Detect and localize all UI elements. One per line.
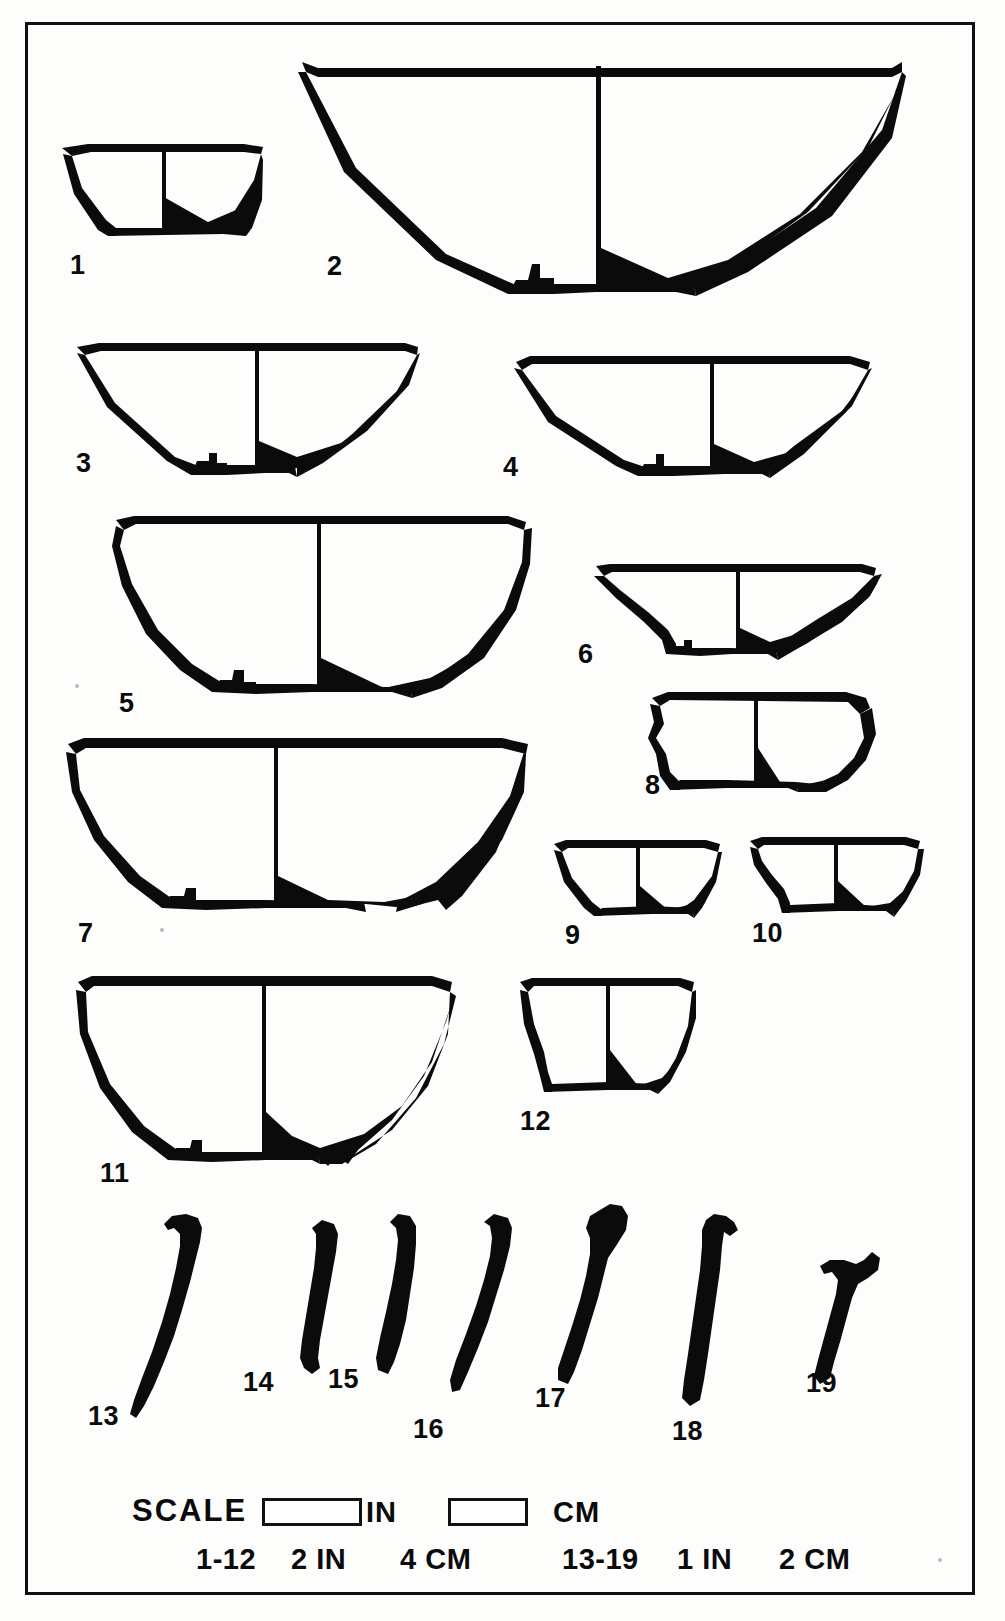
paper-speck: [75, 684, 79, 688]
paper-speck: [938, 1558, 942, 1562]
scale-group-a-inches: 2 IN: [291, 1545, 346, 1574]
paper-speck: [160, 928, 164, 932]
scale-bar-inches: [262, 1498, 362, 1526]
scale-group-b-cm: 2 CM: [779, 1545, 850, 1574]
scale-bar-cm: [448, 1498, 528, 1526]
scale-legend: SCALE IN CM 1-12 2 IN 4 CM 13-19 1 IN 2 …: [0, 0, 1005, 1621]
scale-bar-cm-label: CM: [553, 1498, 600, 1527]
scale-group-a-range: 1-12: [196, 1545, 256, 1574]
scale-bar-inches-label: IN: [366, 1498, 397, 1527]
pottery-plate: 1 2 3: [0, 0, 1005, 1621]
scale-title: SCALE: [132, 1495, 247, 1526]
scale-group-b-inches: 1 IN: [677, 1545, 732, 1574]
scale-group-b-range: 13-19: [562, 1545, 639, 1574]
scale-group-a-cm: 4 CM: [400, 1545, 471, 1574]
